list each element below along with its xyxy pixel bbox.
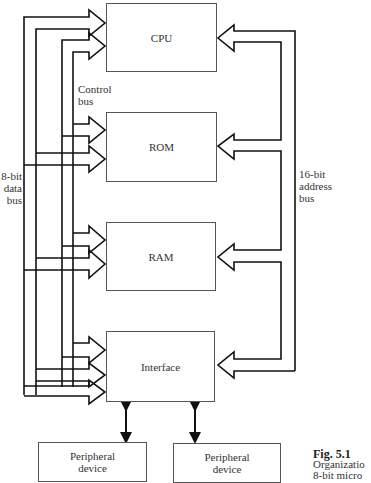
interface-label: Interface [141,361,180,373]
data-bus-label-line3: bus [1,194,22,206]
peripheral-device-1-label: Peripheral device [58,450,128,474]
peripheral-device-2: Peripheral device [173,443,281,483]
control-bus-ram-arrow [62,226,105,253]
address-bus-label: 16-bit address bus [299,168,332,204]
ram-label: RAM [148,251,173,263]
peripheral-device-1: Peripheral device [38,442,147,482]
cpu-label: CPU [151,32,172,44]
address-bus-label-line1: 16-bit [299,168,332,180]
control-bus-label-line2: bus [78,95,112,107]
control-bus-label-line1: Control [78,83,112,95]
data-bus-label: 8-bit data bus [1,170,22,206]
rom-block: ROM [106,112,217,182]
address-bus-label-line3: bus [299,192,332,204]
data-bus-cpu-arrow [24,10,105,395]
control-bus-interface-arrow-1 [62,337,105,363]
control-bus-interface-arrow-2 [36,363,105,387]
control-bus-label: Control bus [78,83,112,107]
data-bus-label-line1: 8-bit [1,170,22,182]
ram-block: RAM [106,222,216,291]
data-bus-label-line2: data [1,182,22,194]
cpu-block: CPU [106,3,217,72]
interface-block: Interface [106,331,215,402]
figure-caption-line2: 8-bit micro [313,470,362,481]
control-bus-rom-arrow [62,117,105,143]
peripheral-device-2-label: Peripheral device [192,451,262,475]
address-bus-label-line2: address [299,180,332,192]
interface-peripheral-links [126,406,195,438]
rom-label: ROM [149,141,174,153]
address-bus [218,25,295,378]
